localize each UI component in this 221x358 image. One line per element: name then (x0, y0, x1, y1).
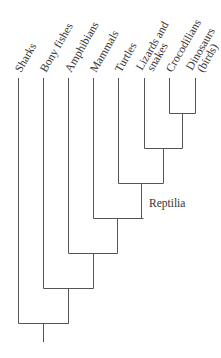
cladogram: Sharks Bony fishes Amphibians Mammals Tu… (0, 0, 221, 358)
tree-branches (19, 78, 196, 342)
taxon-labels: Sharks Bony fishes Amphibians Mammals Tu… (12, 17, 221, 75)
clade-label-reptilia: Reptilia (149, 197, 185, 210)
taxon-label-sharks: Sharks (12, 40, 38, 74)
taxon-label-turtles: Turtles (112, 40, 139, 74)
